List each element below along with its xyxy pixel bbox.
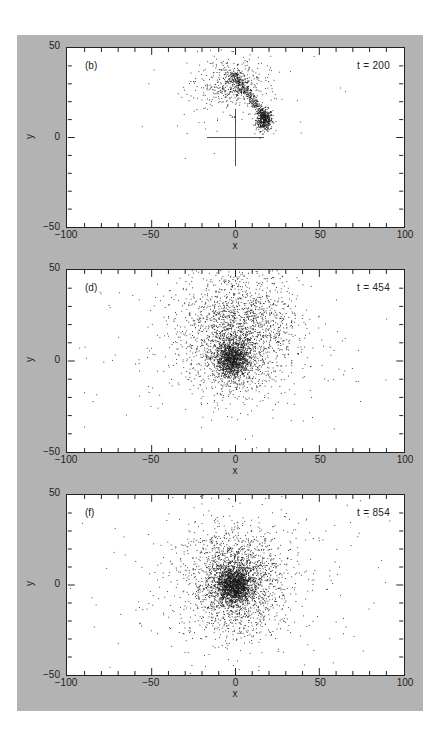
y-tick-label-top: 50	[30, 40, 60, 51]
x-tick-label: 100	[385, 677, 425, 688]
x-tick-label: 0	[216, 454, 256, 465]
particle-points	[79, 270, 387, 451]
time-label: t = 200	[357, 60, 390, 71]
x-tick-label: −50	[131, 454, 171, 465]
x-tick-label: 50	[300, 229, 340, 240]
panel-letter: (b)	[85, 60, 97, 71]
y-axis-title: y	[24, 581, 35, 586]
plot-frame: (b) t = 200	[66, 47, 405, 228]
y-axis-title: y	[24, 357, 35, 362]
x-tick-label: −50	[131, 229, 171, 240]
x-tick-label: −50	[131, 677, 171, 688]
x-axis-title: x	[233, 465, 238, 476]
plot-frame: (f) t = 854	[66, 494, 405, 676]
y-axis-title: y	[24, 134, 35, 139]
time-label: t = 854	[357, 507, 390, 518]
scatter-plot	[67, 495, 404, 675]
x-tick-label: 100	[385, 229, 425, 240]
time-label: t = 454	[357, 282, 390, 293]
x-tick-label: 100	[385, 454, 425, 465]
scatter-plot	[67, 48, 404, 227]
x-tick-label: 0	[216, 229, 256, 240]
particle-points	[70, 495, 390, 674]
particle-points	[142, 49, 346, 159]
x-tick-label: −100	[46, 454, 86, 465]
y-tick-label-top: 50	[30, 262, 60, 273]
panel-letter: (f)	[85, 507, 94, 518]
panel-letter: (d)	[85, 282, 97, 293]
x-tick-label: 0	[216, 677, 256, 688]
scatter-plot	[67, 270, 404, 452]
x-tick-label: −100	[46, 229, 86, 240]
x-tick-label: −100	[46, 677, 86, 688]
x-tick-label: 50	[300, 454, 340, 465]
x-tick-label: 50	[300, 677, 340, 688]
x-axis-title: x	[233, 688, 238, 699]
x-axis-title: x	[233, 240, 238, 251]
plot-frame: (d) t = 454	[66, 269, 405, 453]
y-tick-label-top: 50	[30, 487, 60, 498]
